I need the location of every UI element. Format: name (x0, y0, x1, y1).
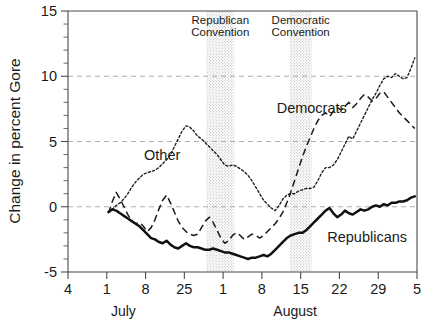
democratic-convention-label-line-0: Democratic (272, 14, 330, 26)
series-label-democrats: Democrats (277, 100, 347, 116)
y-axis-title: Change in percent Gore (6, 58, 23, 223)
x-ticklabel-6: 15 (293, 281, 309, 297)
x-ticklabel-7: 22 (331, 281, 347, 297)
y-ticklabel--5: -5 (44, 264, 57, 280)
y-ticklabel-15: 15 (41, 3, 57, 19)
y-ticklabel-10: 10 (41, 68, 57, 84)
republican-convention-label-line-1: Convention (191, 26, 249, 38)
x-ticklabel-4: 1 (219, 281, 227, 297)
x-ticklabel-9: 5 (413, 281, 421, 297)
y-ticklabel-5: 5 (49, 134, 57, 150)
x-ticklabel-1: 1 (103, 281, 111, 297)
republican-convention-label-line-0: Republican (192, 14, 250, 26)
y-ticklabel-0: 0 (49, 199, 57, 215)
x-ticklabel-5: 8 (258, 281, 266, 297)
x-ticklabel-3: 25 (176, 281, 192, 297)
x-ticklabel-8: 29 (370, 281, 386, 297)
chart-figure: -5051015 41825181522295 JulyAugust Repub… (0, 0, 428, 319)
x-ticklabel-2: 8 (142, 281, 150, 297)
x-ticklabel-0: 4 (64, 281, 72, 297)
month-label-july: July (111, 303, 136, 319)
democratic-convention-label-line-1: Convention (272, 26, 330, 38)
series-label-republicans: Republicans (327, 229, 407, 245)
series-label-other: Other (144, 147, 180, 163)
month-label-august: August (273, 303, 317, 319)
